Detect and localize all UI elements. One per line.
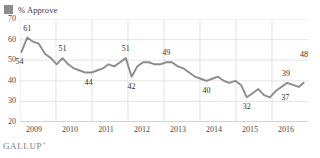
x-axis-tick-label: 2015 bbox=[242, 125, 258, 135]
gallup-brand-text: GALLUP bbox=[3, 141, 42, 151]
y-axis-tick-label: 40 bbox=[8, 77, 16, 85]
x-axis-tick-label: 2010 bbox=[62, 125, 78, 135]
legend-swatch-icon bbox=[4, 5, 13, 14]
trademark-icon: ® bbox=[42, 141, 46, 146]
data-point-label: 49 bbox=[162, 49, 170, 57]
plot-svg bbox=[20, 19, 308, 122]
data-point-label: 44 bbox=[84, 79, 92, 87]
y-axis-tick-label: 20 bbox=[8, 118, 16, 126]
data-point-label: 40 bbox=[202, 87, 210, 95]
approval-line-chart: % Approve 706050403020 54615144514249403… bbox=[0, 0, 320, 158]
data-point-label: 48 bbox=[300, 51, 308, 59]
x-axis-tick-label: 2016 bbox=[278, 125, 294, 135]
x-axis-tick-label: 2011 bbox=[98, 125, 114, 135]
data-point-label: 54 bbox=[15, 58, 23, 66]
data-point-label: 61 bbox=[23, 25, 31, 33]
legend-label: % Approve bbox=[18, 5, 57, 15]
data-point-label: 32 bbox=[243, 103, 251, 111]
plot-area: 546151445142494032393748 bbox=[20, 19, 308, 122]
x-axis-tick-label: 2014 bbox=[206, 125, 222, 135]
data-point-label: 51 bbox=[58, 45, 66, 53]
y-axis: 706050403020 bbox=[0, 19, 18, 122]
data-point-label: 37 bbox=[281, 94, 289, 102]
gallup-brand: GALLUP® bbox=[3, 141, 47, 151]
data-point-label: 51 bbox=[122, 45, 130, 53]
x-axis-tick-label: 2009 bbox=[26, 125, 42, 135]
data-point-label: 42 bbox=[128, 83, 136, 91]
y-axis-tick-label: 60 bbox=[8, 36, 16, 44]
x-axis-tick-label: 2012 bbox=[134, 125, 150, 135]
x-axis: 20092010201120122013201420152016 bbox=[20, 125, 308, 137]
x-axis-tick-label: 2013 bbox=[170, 125, 186, 135]
y-axis-tick-label: 30 bbox=[8, 97, 16, 105]
y-axis-tick-label: 70 bbox=[8, 15, 16, 23]
data-point-label: 39 bbox=[282, 70, 290, 78]
